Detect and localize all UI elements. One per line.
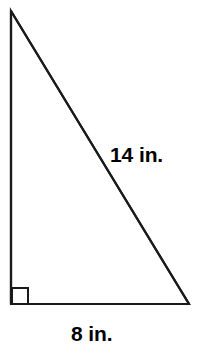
hypotenuse-length-label: 14 in.	[110, 144, 163, 165]
base-length-label: 8 in.	[71, 323, 113, 344]
triangle-drawing	[0, 0, 199, 360]
triangle-figure: 14 in. 8 in.	[0, 0, 199, 360]
